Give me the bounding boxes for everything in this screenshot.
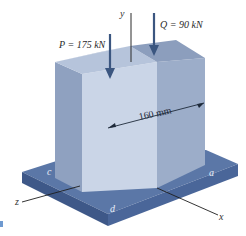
y-axis-label: y	[120, 9, 124, 19]
corner-d-label: d	[110, 204, 115, 214]
load-Q-label-text: Q = 90 kN	[160, 19, 203, 30]
z-axis-label: z	[15, 197, 19, 207]
load-P-label-text: P = 175 kN	[59, 39, 105, 50]
diagram-graphic	[0, 0, 246, 236]
block-left-face	[55, 62, 82, 192]
x-axis-label: x	[219, 212, 223, 222]
corner-a-label: a	[209, 168, 214, 178]
block-front-face	[82, 62, 157, 192]
load-P-label: P = 175 kN	[59, 40, 105, 50]
corner-c-label: c	[47, 167, 51, 177]
post-block	[55, 40, 205, 192]
load-Q-label: Q = 90 kN	[160, 20, 203, 30]
post-on-base-diagram: y Q = 90 kN P = 175 kN 160 mm c a d z x	[0, 0, 246, 236]
page-margin-mark	[0, 221, 3, 227]
